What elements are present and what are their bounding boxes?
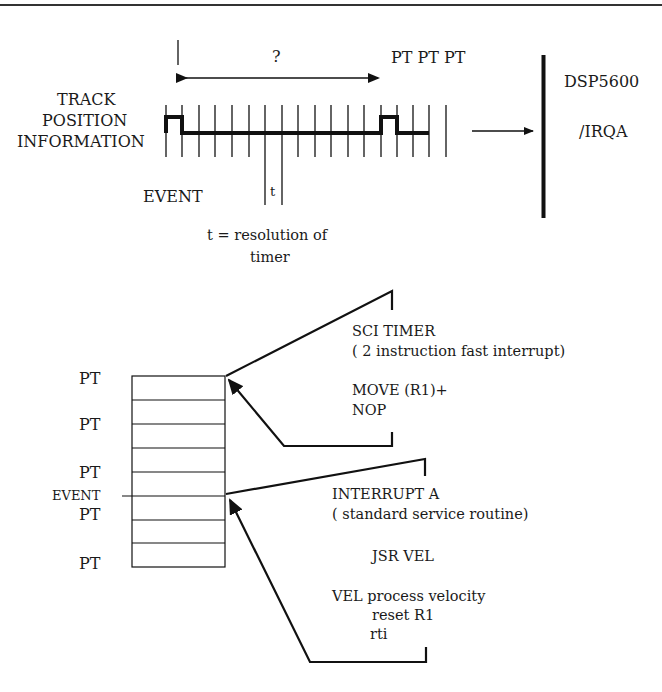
rti: rti xyxy=(370,626,388,642)
buffer-pt-label: PT xyxy=(79,415,101,434)
sci-timer-code2: NOP xyxy=(352,402,387,418)
sci-timer-title: SCI TIMER xyxy=(352,323,436,339)
sci-timer-subtitle: ( 2 instruction fast interrupt) xyxy=(352,343,565,359)
pt-buffer: PT PT PT EVENT PT PT xyxy=(52,369,225,573)
resolution-line2: timer xyxy=(250,249,290,265)
interval-question: ? xyxy=(272,47,281,66)
track-label-line3: INFORMATION xyxy=(17,132,145,151)
dsp-label: DSP5600 xyxy=(564,72,639,91)
buffer-pt-label: PT xyxy=(79,463,101,482)
sci-timer-code1: MOVE (R1)+ xyxy=(352,382,448,398)
diagram-canvas: ? PT PT PT TRACK POSITION INFORMATION xyxy=(0,0,662,692)
vel-process: VEL process velocity xyxy=(331,588,486,604)
t-label: t xyxy=(270,184,276,199)
sci-timer-callout: SCI TIMER ( 2 instruction fast interrupt… xyxy=(226,291,565,446)
track-label-line1: TRACK xyxy=(57,90,117,109)
buffer-pt-label: PT xyxy=(79,554,101,573)
timing-diagram: ? PT PT PT TRACK POSITION INFORMATION xyxy=(17,40,639,265)
pt-sequence-label: PT PT PT xyxy=(391,48,466,67)
jsr-vel: JSR VEL xyxy=(370,548,434,564)
interrupt-a-subtitle: ( standard service routine) xyxy=(332,506,528,522)
tick-marks xyxy=(166,105,446,205)
event-label: EVENT xyxy=(143,187,203,206)
buffer-pt-label: PT xyxy=(79,505,101,524)
buffer-pt-label: PT xyxy=(79,369,101,388)
reset-r1: reset R1 xyxy=(372,607,434,623)
buffer-event-label: EVENT xyxy=(52,488,101,503)
irqa-label: /IRQA xyxy=(579,122,628,141)
resolution-line1: t = resolution of xyxy=(207,227,329,243)
interrupt-a-title: INTERRUPT A xyxy=(332,486,440,502)
track-label-line2: POSITION xyxy=(42,111,127,130)
interrupt-a-callout: INTERRUPT A ( standard service routine) … xyxy=(226,459,528,662)
